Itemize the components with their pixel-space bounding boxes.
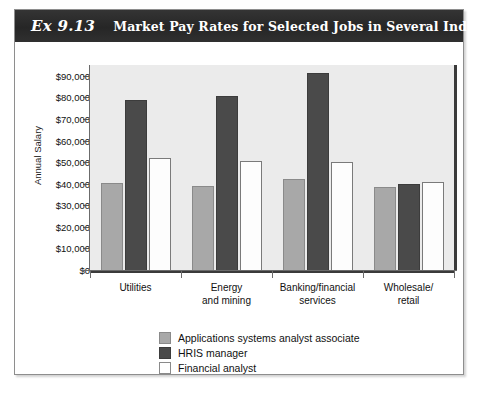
x-axis-category-label: Wholesale/retail xyxy=(363,281,454,307)
x-tick-mark xyxy=(90,271,91,278)
x-axis-category-label: Banking/financialservices xyxy=(272,281,363,307)
bar xyxy=(216,96,238,270)
bar xyxy=(101,183,123,270)
x-axis-category-label: Utilities xyxy=(90,281,181,294)
legend-label: Financial analyst xyxy=(178,362,256,374)
legend-item: HRIS manager xyxy=(159,345,360,360)
exhibit-title: Market Pay Rates for Selected Jobs in Se… xyxy=(113,19,479,34)
y-tick-label: $10,000 xyxy=(28,243,90,254)
bar-group xyxy=(374,65,444,270)
y-tick-label: $90,000 xyxy=(28,70,90,81)
y-tick-label: $40,000 xyxy=(28,178,90,189)
legend-item: Financial analyst xyxy=(159,360,360,375)
bar xyxy=(307,73,329,270)
x-axis-category-line: services xyxy=(272,294,363,307)
x-axis-category-line: Energy xyxy=(181,281,272,294)
legend-item: Applications systems analyst associate xyxy=(159,330,360,345)
legend-swatch-icon xyxy=(159,347,171,359)
exhibit-number: Ex 9.13 xyxy=(31,17,95,35)
bar xyxy=(398,184,420,270)
bar xyxy=(149,158,171,270)
x-axis-category-line: and mining xyxy=(181,294,272,307)
bar-group xyxy=(101,65,171,270)
bar xyxy=(240,161,262,270)
x-tick-mark xyxy=(363,271,364,278)
x-axis-category-line: Wholesale/ xyxy=(363,281,454,294)
x-axis-category-line: Banking/financial xyxy=(272,281,363,294)
y-tick-label: $30,000 xyxy=(28,200,90,211)
bar xyxy=(283,179,305,270)
chart-legend: Applications systems analyst associateHR… xyxy=(159,330,360,375)
x-tick-mark xyxy=(272,271,273,278)
plot-area xyxy=(90,65,457,270)
y-tick-label: $70,000 xyxy=(28,113,90,124)
y-tick-label: $0 xyxy=(28,265,90,276)
exhibit-figure: Ex 9.13 Market Pay Rates for Selected Jo… xyxy=(14,9,464,375)
x-axis-category-line: Utilities xyxy=(90,281,181,294)
y-tick-label: $20,000 xyxy=(28,221,90,232)
bar xyxy=(125,100,147,270)
exhibit-title-bar: Ex 9.13 Market Pay Rates for Selected Jo… xyxy=(15,10,463,42)
x-axis-category-line: retail xyxy=(363,294,454,307)
bar-group xyxy=(283,65,353,270)
bar xyxy=(192,186,214,270)
bar xyxy=(374,187,396,270)
x-tick-mark xyxy=(181,271,182,278)
bar xyxy=(331,162,353,270)
legend-swatch-icon xyxy=(159,332,171,344)
x-axis-category-label: Energyand mining xyxy=(181,281,272,307)
x-axis-line xyxy=(83,270,457,271)
bar-group xyxy=(192,65,262,270)
legend-label: Applications systems analyst associate xyxy=(178,332,360,344)
y-tick-label: $50,000 xyxy=(28,157,90,168)
legend-label: HRIS manager xyxy=(178,347,247,359)
y-tick-label: $80,000 xyxy=(28,92,90,103)
y-tick-label: $60,000 xyxy=(28,135,90,146)
y-axis-ticks: $0$10,000$20,000$30,000$40,000$50,000$60… xyxy=(15,65,90,270)
bar xyxy=(422,182,444,270)
chart-area: Annual Salary $0$10,000$20,000$30,000$40… xyxy=(15,42,463,376)
x-tick-mark xyxy=(454,271,455,278)
legend-swatch-icon xyxy=(159,362,171,374)
bars-container xyxy=(90,65,454,270)
